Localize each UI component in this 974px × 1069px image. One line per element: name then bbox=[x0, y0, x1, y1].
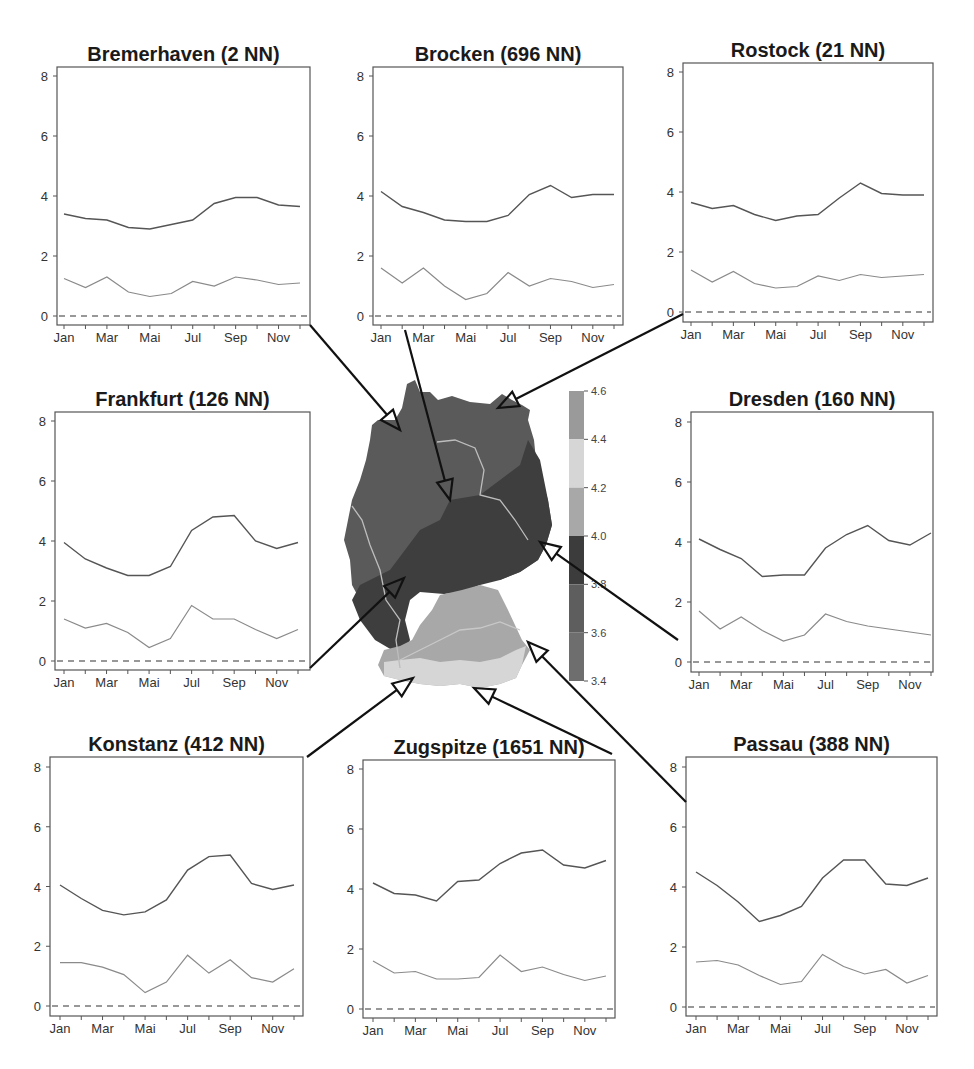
y-tick-label: 2 bbox=[357, 249, 364, 264]
y-tick-label: 4 bbox=[41, 189, 48, 204]
arrow-shaft bbox=[307, 690, 397, 757]
station-panel: Konstanz (412 NN)02468JanMarMaiJulSepNov bbox=[34, 733, 303, 1036]
x-tick-label: Jan bbox=[50, 1021, 71, 1036]
panel-title: Frankfurt (126 NN) bbox=[95, 388, 269, 410]
x-tick-label: Sep bbox=[531, 1023, 554, 1038]
panel-title: Dresden (160 NN) bbox=[729, 388, 896, 410]
colorbar-tick-label: 3.6 bbox=[591, 627, 606, 639]
colorbar-band bbox=[569, 391, 584, 439]
y-tick-label: 0 bbox=[34, 999, 41, 1014]
y-tick-label: 8 bbox=[41, 69, 48, 84]
y-tick-label: 0 bbox=[41, 309, 48, 324]
arrow-shaft bbox=[542, 656, 686, 802]
x-tick-label: Jan bbox=[686, 1021, 707, 1036]
x-tick-label: Sep bbox=[853, 1021, 876, 1036]
station-panel: Brocken (696 NN)02468JanMarMaiJulSepNov bbox=[357, 43, 623, 345]
x-tick-label: Sep bbox=[849, 327, 872, 342]
x-tick-label: Mai bbox=[135, 1021, 156, 1036]
series-line-lower bbox=[699, 611, 931, 641]
x-tick-label: Jul bbox=[810, 327, 827, 342]
y-tick-label: 6 bbox=[39, 474, 46, 489]
germany-map bbox=[344, 380, 552, 688]
y-tick-label: 4 bbox=[667, 185, 674, 200]
plot-frame bbox=[55, 412, 310, 670]
panel-title: Zugspitze (1651 NN) bbox=[393, 736, 584, 758]
station-panel: Bremerhaven (2 NN)02468JanMarMaiJulSepNo… bbox=[41, 43, 310, 345]
y-tick-label: 8 bbox=[357, 69, 364, 84]
panel-title: Passau (388 NN) bbox=[733, 733, 890, 755]
x-tick-label: Mar bbox=[412, 330, 435, 345]
colorbar-tick-label: 4.0 bbox=[591, 530, 606, 542]
x-tick-label: Mar bbox=[404, 1023, 427, 1038]
figure-canvas: 4.64.44.24.03.83.63.4 Bremerhaven (2 NN)… bbox=[0, 0, 974, 1069]
y-tick-label: 8 bbox=[347, 762, 354, 777]
station-panel: Zugspitze (1651 NN)02468JanMarMaiJulSepN… bbox=[347, 736, 615, 1038]
location-arrow bbox=[528, 642, 686, 802]
y-tick-label: 4 bbox=[34, 880, 41, 895]
y-tick-label: 2 bbox=[347, 942, 354, 957]
location-arrow bbox=[540, 542, 678, 640]
panel-title: Bremerhaven (2 NN) bbox=[87, 43, 279, 65]
x-tick-label: Sep bbox=[219, 1021, 242, 1036]
y-tick-label: 0 bbox=[39, 654, 46, 669]
series-line-upper bbox=[60, 855, 294, 915]
series-line-upper bbox=[381, 186, 614, 222]
y-tick-label: 8 bbox=[675, 415, 682, 430]
y-tick-label: 6 bbox=[41, 129, 48, 144]
colorbar-tick-label: 3.4 bbox=[591, 675, 606, 687]
x-tick-label: Nov bbox=[267, 330, 291, 345]
x-tick-label: Jul bbox=[184, 330, 201, 345]
colorbar-legend: 4.64.44.24.03.83.63.4 bbox=[569, 385, 606, 687]
y-tick-label: 6 bbox=[347, 822, 354, 837]
x-tick-label: Mai bbox=[139, 675, 160, 690]
y-tick-label: 2 bbox=[39, 594, 46, 609]
y-tick-label: 6 bbox=[357, 129, 364, 144]
x-tick-label: Nov bbox=[261, 1021, 285, 1036]
y-tick-label: 2 bbox=[675, 595, 682, 610]
colorbar-tick-label: 4.4 bbox=[591, 433, 606, 445]
y-tick-label: 4 bbox=[357, 189, 364, 204]
x-tick-label: Sep bbox=[224, 330, 247, 345]
station-panel: Dresden (160 NN)02468JanMarMaiJulSepNov bbox=[675, 388, 933, 692]
y-tick-label: 2 bbox=[34, 939, 41, 954]
x-tick-label: Nov bbox=[895, 1021, 919, 1036]
x-tick-label: Sep bbox=[539, 330, 562, 345]
colorbar-tick-label: 4.6 bbox=[591, 385, 606, 397]
x-tick-label: Mai bbox=[447, 1023, 468, 1038]
series-line-upper bbox=[373, 850, 606, 901]
colorbar-band bbox=[569, 439, 584, 487]
x-tick-label: Mar bbox=[722, 327, 745, 342]
y-tick-label: 4 bbox=[675, 535, 682, 550]
panel-title: Brocken (696 NN) bbox=[415, 43, 582, 65]
colorbar-band bbox=[569, 584, 584, 632]
colorbar-band bbox=[569, 488, 584, 536]
x-tick-label: Jan bbox=[54, 675, 75, 690]
series-line-lower bbox=[373, 955, 606, 981]
series-line-lower bbox=[64, 277, 300, 297]
station-panel: Frankfurt (126 NN)02468JanMarMaiJulSepNo… bbox=[39, 388, 310, 690]
colorbar-band bbox=[569, 536, 584, 584]
station-panel: Rostock (21 NN)02468JanMarMaiJulSepNov bbox=[667, 39, 933, 342]
x-tick-label: Mar bbox=[95, 675, 118, 690]
series-line-upper bbox=[64, 516, 298, 576]
plot-frame bbox=[686, 757, 937, 1016]
x-tick-label: Nov bbox=[573, 1023, 597, 1038]
x-tick-label: Jan bbox=[54, 330, 75, 345]
series-line-upper bbox=[64, 198, 300, 230]
y-tick-label: 8 bbox=[34, 760, 41, 775]
x-tick-label: Jul bbox=[492, 1023, 509, 1038]
x-tick-label: Mar bbox=[96, 330, 119, 345]
x-tick-label: Mar bbox=[91, 1021, 114, 1036]
y-tick-label: 6 bbox=[667, 125, 674, 140]
x-tick-label: Nov bbox=[898, 677, 922, 692]
station-panel: Passau (388 NN)02468JanMarMaiJulSepNov bbox=[670, 733, 937, 1036]
x-tick-label: Nov bbox=[581, 330, 605, 345]
x-tick-label: Jan bbox=[689, 677, 710, 692]
y-tick-label: 2 bbox=[41, 249, 48, 264]
x-tick-label: Jul bbox=[183, 675, 200, 690]
x-tick-label: Mai bbox=[455, 330, 476, 345]
y-tick-label: 2 bbox=[667, 245, 674, 260]
y-tick-label: 6 bbox=[675, 475, 682, 490]
colorbar-band bbox=[569, 633, 584, 681]
series-line-lower bbox=[691, 270, 924, 288]
